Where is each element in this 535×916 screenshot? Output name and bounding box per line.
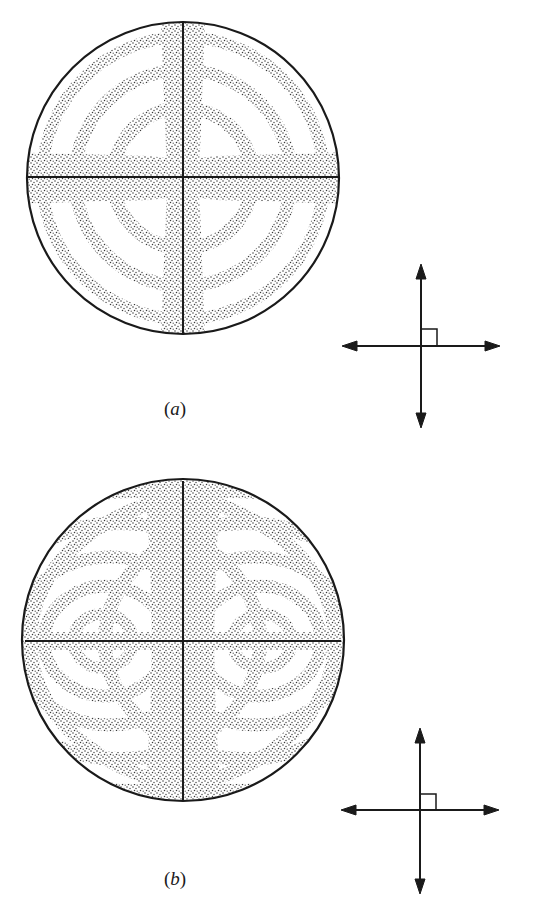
crossed-polars-icon <box>341 728 499 894</box>
figure-canvas <box>0 0 535 916</box>
isogyres-a <box>0 0 360 360</box>
panel-label-a: (a) <box>164 398 186 420</box>
panel-label-b: (b) <box>164 868 186 890</box>
interference-figure-b <box>0 470 430 810</box>
interference-figure-a <box>0 0 360 360</box>
crossed-polars-icon <box>342 264 500 428</box>
